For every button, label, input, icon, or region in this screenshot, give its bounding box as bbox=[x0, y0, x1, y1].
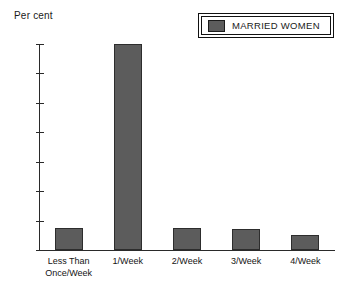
bar-1-week bbox=[114, 44, 142, 250]
x-axis-line bbox=[39, 250, 335, 251]
bar-chart: Per cent MARRIED WOMEN 010203040506070 L… bbox=[0, 0, 344, 291]
bar-4-week bbox=[291, 235, 319, 250]
chart-legend: MARRIED WOMEN bbox=[198, 13, 334, 38]
bar-2-week bbox=[173, 228, 201, 250]
bar-less-than-once-week bbox=[55, 228, 83, 250]
bars-layer bbox=[39, 44, 335, 250]
plot-area: 010203040506070 bbox=[39, 44, 335, 250]
legend-label-married-women: MARRIED WOMEN bbox=[232, 20, 320, 31]
y-axis-title: Per cent bbox=[14, 10, 53, 21]
bar-3-week bbox=[232, 229, 260, 250]
y-tick-0 bbox=[36, 250, 44, 251]
x-label-4-week: 4/Week bbox=[270, 256, 340, 268]
legend-inner-frame: MARRIED WOMEN bbox=[201, 16, 331, 35]
legend-swatch-married-women bbox=[208, 20, 225, 32]
